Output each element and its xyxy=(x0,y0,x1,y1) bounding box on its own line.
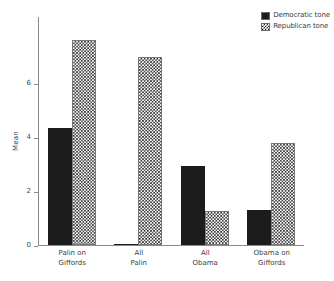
x-category-label-0: Palin on Giffords xyxy=(39,249,106,268)
bar-republican-3[interactable] xyxy=(271,143,295,245)
x-category-label-1: All Palin xyxy=(106,249,173,268)
y-tick-2: 2 xyxy=(34,192,38,193)
bar-group-obama-on-giffords xyxy=(238,17,304,245)
y-tick-label-2: 2 xyxy=(27,187,31,196)
bar-democratic-2[interactable] xyxy=(181,166,205,245)
bar-group-all-palin xyxy=(105,17,171,245)
y-tick-0: 0 xyxy=(34,246,38,247)
bar-democratic-0[interactable] xyxy=(48,128,72,245)
x-category-label-2: All Obama xyxy=(172,249,239,268)
x-axis-line xyxy=(38,245,304,246)
bar-republican-0[interactable] xyxy=(72,40,96,245)
bar-group-all-obama xyxy=(172,17,238,245)
y-tick-label-4: 4 xyxy=(27,133,31,142)
x-category-label-3: Obama on Giffords xyxy=(239,249,306,268)
bar-chart: Democratic tone Republican tone Mean 6 4… xyxy=(0,0,334,281)
y-axis-label: Mean xyxy=(12,131,20,151)
bar-republican-1[interactable] xyxy=(138,57,162,245)
y-tick-4: 4 xyxy=(34,138,38,139)
bar-democratic-3[interactable] xyxy=(247,210,271,245)
bar-republican-2[interactable] xyxy=(205,211,229,245)
plot-area: 6 4 2 0 xyxy=(38,17,304,246)
y-tick-label-0: 0 xyxy=(27,241,31,250)
bar-groups xyxy=(39,17,304,245)
bar-group-palin-on-giffords xyxy=(39,17,105,245)
bar-democratic-1[interactable] xyxy=(114,244,138,245)
y-tick-6: 6 xyxy=(34,84,38,85)
x-axis-categories: Palin on Giffords All Palin All Obama Ob… xyxy=(39,249,305,268)
y-tick-label-6: 6 xyxy=(27,79,31,88)
